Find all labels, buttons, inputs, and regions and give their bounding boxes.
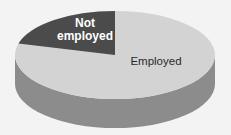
pie-chart: Not employed Employed: [0, 0, 231, 135]
label-employed: Employed: [128, 55, 184, 68]
label-not-employed-line2: employed: [56, 30, 114, 43]
label-not-employed: Not employed: [56, 17, 114, 43]
pie-chart-graphic: [0, 0, 231, 135]
